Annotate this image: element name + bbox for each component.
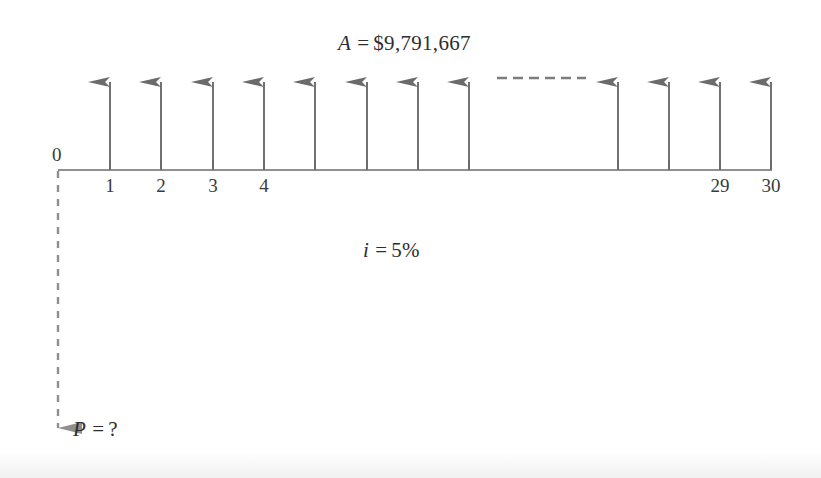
timeline-origin-label: 0: [52, 145, 62, 164]
tick-label-3: 3: [208, 176, 218, 195]
cash-flow-diagram-canvas: 0 1 2 3 4 29 30 A=$9,791,667 i=5% P=?: [0, 0, 821, 478]
present-value-symbol: P: [73, 417, 88, 441]
cash-inflow-arrows-right: [618, 82, 771, 170]
cash-inflow-arrows-left: [110, 82, 469, 170]
rate-symbol: i: [363, 238, 371, 262]
present-value-operator: =: [88, 417, 108, 441]
tick-label-2: 2: [156, 176, 166, 195]
annuity-amount-label: A=$9,791,667: [338, 33, 471, 54]
present-value-label: P=?: [73, 419, 118, 440]
annuity-operator: =: [353, 31, 373, 55]
timeline-ticks: [110, 160, 771, 170]
rate-value: 5%: [391, 238, 420, 262]
tick-label-4: 4: [259, 176, 269, 195]
annuity-symbol: A: [338, 31, 353, 55]
tick-label-1: 1: [105, 176, 115, 195]
present-value-unknown: ?: [108, 417, 118, 441]
tick-label-29: 29: [711, 176, 730, 195]
annuity-value: $9,791,667: [373, 31, 471, 55]
rate-operator: =: [371, 238, 391, 262]
interest-rate-label: i=5%: [363, 240, 420, 261]
tick-label-30: 30: [762, 176, 781, 195]
